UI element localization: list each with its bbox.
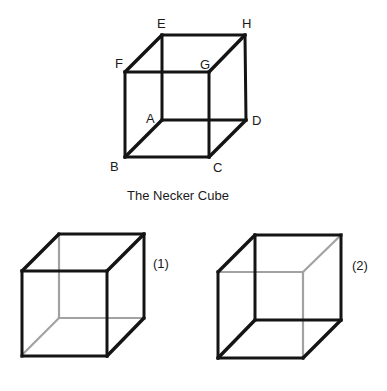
edge-C-D — [303, 320, 341, 358]
vertex-label-F: F — [115, 56, 123, 71]
necker-cube-figure: E H F G A D B C The Necker Cube (1) — [0, 0, 387, 391]
vertex-label-C: C — [213, 160, 222, 175]
edge-F-E — [218, 235, 255, 272]
vertex-label-E: E — [157, 16, 166, 31]
vertex-label-A: A — [146, 111, 155, 126]
edge-F-E — [22, 234, 59, 271]
edge-H-D — [245, 35, 246, 120]
figure-caption: The Necker Cube — [127, 188, 229, 203]
hidden-edge-A-B — [22, 318, 59, 355]
vertex-label-H: H — [242, 16, 251, 31]
hidden-edge-G-H — [303, 235, 341, 272]
main-necker-cube: E H F G A D B C — [110, 16, 261, 175]
variant-label-1: (1) — [153, 256, 169, 271]
variant-label-2: (2) — [352, 258, 368, 273]
edge-F-E — [125, 35, 162, 72]
edge-G-H — [107, 234, 144, 271]
vertex-label-D: D — [252, 113, 261, 128]
edge-B-A — [218, 320, 255, 358]
vertex-label-B: B — [110, 159, 119, 174]
edge-B-A — [125, 120, 162, 157]
edge-C-D — [209, 120, 246, 157]
cube-variant-2: (2) — [218, 235, 368, 358]
cube-variant-1: (1) — [22, 234, 169, 356]
edge-G-H — [209, 35, 245, 72]
edge-C-D — [107, 318, 144, 356]
vertex-label-G: G — [200, 57, 210, 72]
